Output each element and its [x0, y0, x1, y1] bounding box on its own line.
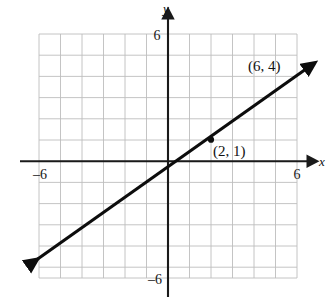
x-axis-positive-tick-label: 6 [294, 167, 301, 182]
y-axis-negative-tick-label: –6 [147, 272, 162, 287]
y-axis-label: y [161, 1, 169, 16]
x-axis-label: x [318, 154, 325, 169]
point-label-2-1: (2, 1) [213, 143, 246, 160]
graph-canvas: –6 6 6 –6 y x (6, 4) (2, 1) [0, 0, 335, 297]
x-axis-negative-tick-label: –6 [32, 167, 47, 182]
point-label-6-4: (6, 4) [248, 58, 281, 75]
y-axis-positive-tick-label: 6 [154, 28, 161, 43]
coordinate-plane-figure: –6 6 6 –6 y x (6, 4) (2, 1) [0, 0, 335, 297]
data-point-marker [208, 137, 214, 143]
